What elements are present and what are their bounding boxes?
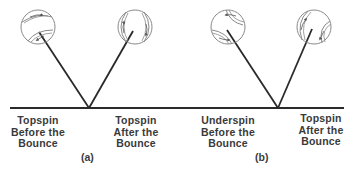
ball-topspin-after-b-icon [297,10,331,44]
panel-tag-b: (b) [255,151,268,163]
label-topspin-before-a: Topspin Before the Bounce [8,115,68,150]
label-underspin-before-b: Underspin Before the Bounce [198,115,258,150]
trajectory-a [39,31,133,108]
label-topspin-after-b: Topspin After the Bounce [293,113,349,148]
ball-topspin-after-a-icon [118,10,152,44]
panel-tag-a: (a) [81,151,94,163]
trajectory-b [227,29,312,108]
ball-underspin-before-b-icon [211,10,245,44]
label-topspin-after-a: Topspin After the Bounce [108,115,164,150]
ball-topspin-before-a-icon [21,10,55,44]
